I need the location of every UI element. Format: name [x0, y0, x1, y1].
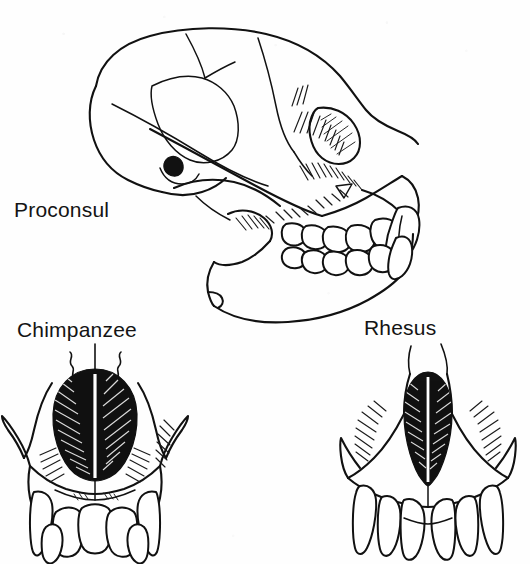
primate-skull-figure-canvas: .ink { fill: none; stroke: #111111; stro…	[0, 0, 530, 564]
chimpanzee-zygomatic-right	[160, 416, 188, 466]
label-rhesus: Rhesus	[364, 316, 436, 340]
chimpanzee-zygomatic-right-hatching	[156, 420, 174, 467]
chimpanzee-face-drawing	[2, 344, 188, 563]
proconsul-auditory-meatus	[164, 156, 183, 176]
rhesus-zygomatic-right	[452, 414, 508, 478]
figure-root: .ink { fill: none; stroke: #111111; stro…	[0, 0, 530, 564]
proconsul-piriform-aperture	[336, 184, 352, 198]
proconsul-skull-drawing	[90, 28, 420, 322]
label-chimpanzee: Chimpanzee	[17, 318, 137, 342]
chimpanzee-left-flourish	[70, 352, 74, 378]
rhesus-left-leader	[409, 346, 411, 374]
proconsul-coronal-suture	[205, 62, 235, 78]
chimpanzee-incisor-row	[42, 504, 149, 563]
proconsul-occlusal-hatching	[266, 206, 316, 223]
proconsul-mandibular-fossa	[196, 196, 230, 220]
rhesus-zygomatic-left	[348, 414, 404, 478]
rhesus-right-leader	[441, 344, 447, 374]
label-proconsul: Proconsul	[14, 198, 109, 222]
proconsul-mandible-angle	[207, 262, 214, 306]
proconsul-parietal-suture	[186, 34, 205, 78]
proconsul-zygomatic-lower-border	[174, 180, 280, 206]
proconsul-braincase-outline	[96, 28, 418, 144]
proconsul-zygomatic-hatching	[316, 190, 348, 208]
chimpanzee-right-flourish	[117, 352, 121, 378]
proconsul-temporal-line	[112, 104, 268, 186]
proconsul-sphenoid-suture	[258, 38, 294, 152]
proconsul-mandible-ramus	[214, 241, 270, 265]
rhesus-face-drawing	[340, 344, 516, 560]
rhesus-infraorbital-hatching-right	[470, 401, 501, 461]
proconsul-nasal-hatching	[300, 163, 362, 190]
chimpanzee-left-facial-outline	[24, 383, 52, 458]
rhesus-infraorbital-hatching-left	[355, 401, 386, 461]
chimpanzee-zygomatic-left	[2, 416, 30, 466]
